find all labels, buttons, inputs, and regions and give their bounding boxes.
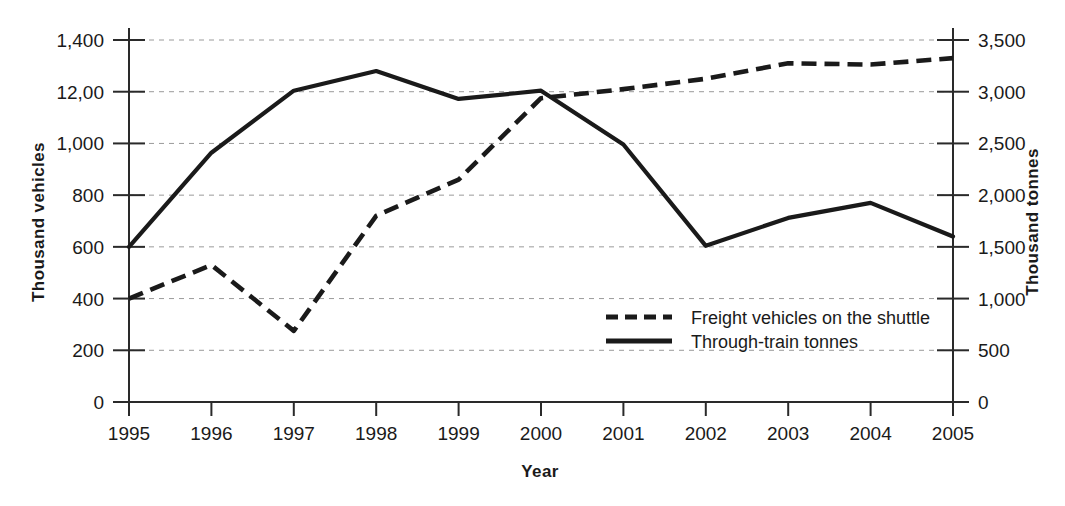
x-axis-title: Year [521, 462, 559, 481]
left-axis-tick-label: 1,000 [56, 133, 104, 154]
left-axis-tick-label: 12,00 [56, 82, 104, 103]
right-axis-tick-label: 3,000 [978, 82, 1026, 103]
right-axis-tick-labels-group: 05001,0001,5002,0002,5003,0003,500 [978, 30, 1026, 413]
x-axis-tick-label: 2003 [767, 423, 809, 444]
x-axis-tick-label: 1999 [437, 423, 479, 444]
x-axis-tick-label: 1996 [190, 423, 232, 444]
legend-label-freight-vehicles: Freight vehicles on the shuttle [691, 308, 930, 328]
right-axis-tick-label: 1,000 [978, 289, 1026, 310]
left-axis-title: Thousand vehicles [29, 142, 48, 302]
right-axis-title: Thousand tonnes [1023, 148, 1042, 296]
legend-label-through-train-tonnes: Through-train tonnes [691, 332, 858, 352]
x-axis-tick-label: 2004 [849, 423, 892, 444]
x-axis-tick-label: 2005 [932, 423, 974, 444]
left-axis-tick-label: 800 [72, 185, 104, 206]
left-axis-tick-label: 600 [72, 237, 104, 258]
gridlines-group [129, 40, 953, 350]
right-axis-tick-label: 500 [978, 340, 1010, 361]
x-axis-tick-label: 1995 [108, 423, 150, 444]
left-axis-tick-labels-group: 02004006008001,00012,001,400 [56, 30, 104, 413]
chart-figure: 02004006008001,00012,001,400 05001,0001,… [0, 0, 1065, 506]
x-axis-tick-label: 1997 [273, 423, 315, 444]
right-axis-tick-label: 0 [978, 392, 989, 413]
x-axis-tick-labels-group: 1995199619971998199920002001200220032004… [108, 423, 974, 444]
right-axis-tick-label: 1,500 [978, 237, 1026, 258]
right-axis-tick-label: 2,000 [978, 185, 1026, 206]
x-axis-tick-label: 2002 [685, 423, 727, 444]
x-axis-ticks-group [129, 402, 953, 416]
left-axis-tick-label: 400 [72, 289, 104, 310]
x-axis-tick-label: 1998 [355, 423, 397, 444]
left-axis-tick-label: 1,400 [56, 30, 104, 51]
line-chart-canvas: 02004006008001,00012,001,400 05001,0001,… [0, 0, 1065, 506]
series-line-freight-vehicles [129, 58, 953, 331]
left-axis-tick-label: 200 [72, 340, 104, 361]
legend: Freight vehicles on the shuttle Through-… [606, 308, 930, 352]
right-axis-tick-label: 2,500 [978, 133, 1026, 154]
x-axis-tick-label: 2001 [602, 423, 644, 444]
x-axis-tick-label: 2000 [520, 423, 562, 444]
right-axis-tick-label: 3,500 [978, 30, 1026, 51]
left-axis-tick-label: 0 [93, 392, 104, 413]
